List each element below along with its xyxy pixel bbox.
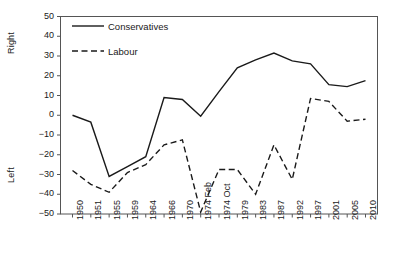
x-tick-label: 1997 (314, 200, 323, 220)
x-tick-label: 1950 (76, 200, 85, 220)
x-tick-label: 1951 (94, 200, 103, 220)
x-tick-label: 1983 (259, 200, 268, 220)
x-axis-tick-labels: 19501951195519591964196619701974 Feb1974… (0, 0, 393, 277)
x-tick-label: 2001 (332, 200, 341, 220)
x-tick-label: 1959 (131, 200, 140, 220)
x-tick-label: 1964 (149, 200, 158, 220)
legend-item-labour: Labour (108, 47, 138, 57)
x-tick-label: 1979 (241, 200, 250, 220)
election-manifesto-ideology-chart: Right Left 50403020100−10−20−30−40−50 19… (0, 0, 393, 277)
x-tick-label: 2005 (351, 200, 360, 220)
x-tick-label: 1987 (277, 200, 286, 220)
x-tick-label: 1974 Oct (223, 183, 232, 220)
x-tick-label: 2010 (369, 200, 378, 220)
legend-item-conservatives: Conservatives (108, 22, 168, 32)
x-tick-label: 1974 Feb (204, 182, 213, 220)
x-tick-label: 1955 (113, 200, 122, 220)
x-tick-label: 1966 (168, 200, 177, 220)
x-tick-label: 1970 (186, 200, 195, 220)
x-tick-label: 1992 (296, 200, 305, 220)
